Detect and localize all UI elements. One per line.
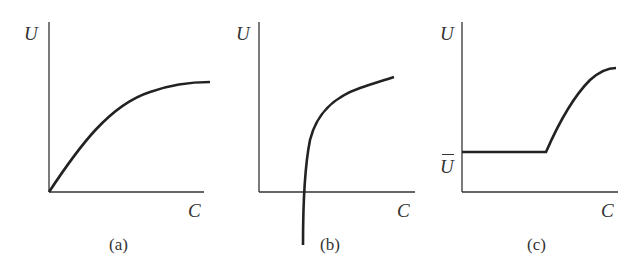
panel-a-axes [49, 22, 204, 192]
panel-a-x-label: C [188, 201, 201, 220]
panel-a-curve [49, 82, 210, 192]
panel-c-axes [462, 22, 618, 192]
panel-a-caption: (a) [109, 236, 128, 253]
panel-b-x-label: C [397, 201, 410, 220]
panel-b-y-label: U [236, 24, 250, 43]
panel-b-caption: (b) [320, 236, 340, 253]
panel-c-reservation-utility-label: U [440, 157, 454, 176]
panel-c-caption: (c) [527, 236, 546, 253]
panel-b-curve [303, 77, 394, 245]
panel-b-axes [259, 22, 415, 192]
panel-a-y-label: U [24, 24, 38, 43]
panel-c-y-label: U [440, 24, 454, 43]
panel-c-x-label: C [601, 201, 614, 220]
panel-c-curve [462, 68, 616, 152]
figure-canvas [0, 0, 634, 273]
